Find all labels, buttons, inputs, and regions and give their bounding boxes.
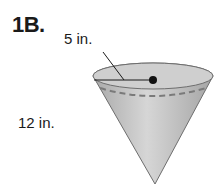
- cone-diagram: [0, 0, 220, 189]
- slant-height-label: 12 in.: [18, 114, 55, 131]
- center-dot: [149, 76, 157, 84]
- radius-label: 5 in.: [64, 30, 92, 47]
